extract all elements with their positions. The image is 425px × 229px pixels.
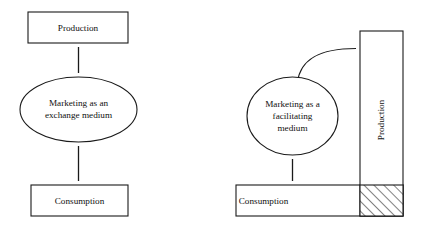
right-center-label-line3: medium	[277, 123, 307, 133]
left-center-label-line2: exchange medium	[45, 110, 112, 120]
marketing-medium-diagram: Production Marketing as an exchange medi…	[0, 0, 425, 229]
left-panel-exchange-medium: Production Marketing as an exchange medi…	[20, 12, 137, 216]
right-production-label: Production	[376, 99, 386, 140]
right-center-label-line1: Marketing as a	[265, 99, 320, 109]
left-consumption-label: Consumption	[55, 196, 105, 206]
left-center-label-line1: Marketing as an	[49, 98, 109, 108]
diagram-root: Production Marketing as an exchange medi…	[0, 0, 425, 229]
left-production-label: Production	[58, 23, 99, 33]
right-consumption-label: Consumption	[239, 196, 289, 206]
hatched-overlap-cell	[360, 185, 403, 216]
right-center-label-line2: facilitating	[273, 111, 313, 121]
